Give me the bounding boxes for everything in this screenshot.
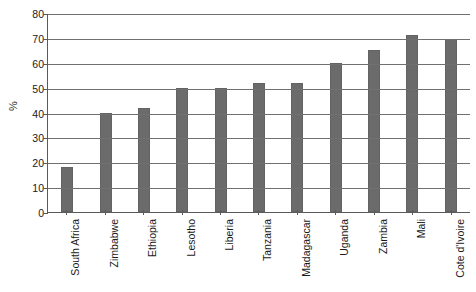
x-label-slot: Liberia [201,215,239,292]
x-axis-tick-labels: South AfricaZimbabweEthiopiaLesothoLiber… [47,215,470,292]
y-axis-tick-labels: 80706050403020100 [18,0,44,292]
gridline [48,14,470,15]
x-tick-mark [335,210,336,215]
bar [330,63,342,212]
y-tick-mark [43,138,48,139]
x-tick-label: South Africa [70,219,81,276]
x-label-slot: Zambia [355,215,393,292]
y-tick-label: 20 [20,158,44,168]
y-tick-label: 50 [20,84,44,94]
y-tick-label: 80 [20,9,44,19]
x-tick-mark [143,210,144,215]
x-tick-mark [105,210,106,215]
x-tick-label: Liberia [224,219,235,251]
x-label-slot: Tanzania [239,215,277,292]
bar [406,35,418,212]
y-tick-label: 0 [20,208,44,218]
bar [445,39,457,212]
x-tick-mark [451,210,452,215]
x-tick-label: Zimbabwe [109,219,120,267]
x-tick-label: Mali [416,219,427,238]
x-tick-mark [220,210,221,215]
y-tick-mark [43,188,48,189]
y-tick-label: 30 [20,133,44,143]
x-tick-label: Ethiopia [147,219,158,257]
bar [215,88,227,212]
x-tick-label: Madagascar [301,219,312,277]
x-tick-label: Tanzania [262,219,273,261]
x-label-slot: Mali [393,215,431,292]
bar [138,108,150,212]
gridline [48,64,470,65]
bar [291,83,303,212]
y-tick-mark [43,114,48,115]
x-tick-label: Cote d'Ivoire [455,219,466,278]
bar [100,113,112,213]
y-tick-mark [43,89,48,90]
x-tick-mark [182,210,183,215]
x-tick-label: Uganda [339,219,350,256]
x-label-slot: Ethiopia [124,215,162,292]
x-tick-label: Zambia [378,219,389,254]
x-tick-mark [66,210,67,215]
x-tick-mark [258,210,259,215]
bar-chart: % 80706050403020100 South AfricaZimbabwe… [0,0,476,292]
x-label-slot: Lesotho [162,215,200,292]
y-tick-mark [43,163,48,164]
x-label-slot: South Africa [47,215,85,292]
gridline [48,138,470,139]
y-tick-label: 40 [20,109,44,119]
x-tick-label: Lesotho [186,219,197,256]
bar [253,83,265,212]
y-tick-label: 60 [20,59,44,69]
bar [61,167,73,212]
x-label-slot: Madagascar [278,215,316,292]
plot-area [47,14,470,213]
gridline [48,114,470,115]
y-tick-mark [43,213,48,214]
x-tick-mark [297,210,298,215]
y-tick-label: 10 [20,183,44,193]
gridline [48,163,470,164]
x-label-slot: Uganda [316,215,354,292]
bar [176,88,188,212]
gridline [48,188,470,189]
y-tick-label: 70 [20,34,44,44]
y-tick-mark [43,14,48,15]
y-tick-mark [43,39,48,40]
gridline [48,39,470,40]
x-tick-mark [374,210,375,215]
y-tick-mark [43,64,48,65]
x-label-slot: Zimbabwe [85,215,123,292]
x-tick-mark [412,210,413,215]
gridline [48,89,470,90]
x-label-slot: Cote d'Ivoire [432,215,470,292]
